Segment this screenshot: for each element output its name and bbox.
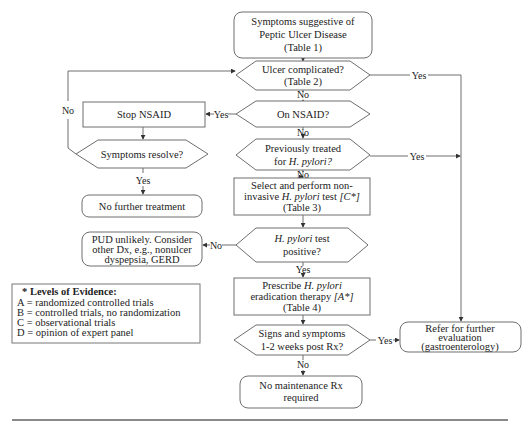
legend-item-d: D = opinion of expert panel xyxy=(17,327,134,338)
node-test-positive: H. pylori test positive? xyxy=(236,228,368,262)
node-signs-line1: Signs and symptoms xyxy=(259,328,346,339)
node-previously-line2: for H. pylori? xyxy=(274,156,333,167)
node-signs-post-rx: Signs and symptoms 1-2 weeks post Rx? xyxy=(234,325,370,355)
node-select-line3: (Table 3) xyxy=(283,202,322,214)
node-no-maintenance-line2: required xyxy=(284,392,320,403)
node-start-line2: Peptic Ulcer Disease xyxy=(259,29,347,40)
edge-label-nsaid-yes: Yes xyxy=(214,109,229,120)
node-symptoms-resolve: Symptoms resolve? xyxy=(76,140,208,168)
node-ulcer-line2: (Table 2) xyxy=(284,76,323,88)
evidence-legend: * Levels of Evidence: A = randomized con… xyxy=(12,284,200,343)
node-ulcer-line1: Ulcer complicated? xyxy=(262,64,344,75)
node-select-line1: Select and perform non- xyxy=(251,180,353,191)
edge-label-nsaid-no: No xyxy=(297,127,309,138)
node-previously-treated: Previously treated for H. pylori? xyxy=(236,139,370,170)
node-start-line3: (Table 1) xyxy=(284,42,323,54)
node-select-test: Select and perform non- invasive H. pylo… xyxy=(234,178,370,215)
edge-label-signs-no: No xyxy=(297,359,309,370)
node-no-further-label: No further treatment xyxy=(99,201,185,212)
node-on-nsaid: On NSAID? xyxy=(236,101,370,127)
node-prescribe: Prescribe H. pylori eradication therapy … xyxy=(234,278,370,315)
node-positive-line1: H. pylori test xyxy=(273,233,329,244)
node-select-line2: invasive H. pylori test [C*] xyxy=(244,191,360,202)
edge-label-ulcer-no: No xyxy=(297,89,309,100)
node-stop-nsaid: Stop NSAID xyxy=(83,102,205,127)
node-stop-nsaid-label: Stop NSAID xyxy=(117,109,171,120)
node-prescribe-line3: (Table 4) xyxy=(283,302,322,314)
edge-label-signs-yes: Yes xyxy=(378,335,393,346)
node-refer: Refer for further evaluation (gastroente… xyxy=(400,322,521,353)
node-pud-line3: dyspepsia, GERD xyxy=(104,254,180,265)
node-refer-line3: (gastroenterology) xyxy=(421,341,499,353)
node-positive-line2: positive? xyxy=(283,246,321,257)
edge-label-ulcer-yes: Yes xyxy=(412,70,427,81)
node-on-nsaid-label: On NSAID? xyxy=(277,109,330,120)
peptic-ulcer-flowchart: No Yes Yes No Yes No Yes No No Yes Yes N… xyxy=(0,0,531,425)
edge-label-treated-yes: Yes xyxy=(410,151,425,162)
edge-label-positive-no: No xyxy=(210,240,222,251)
edge-label-positive-yes: Yes xyxy=(296,264,311,275)
node-no-further-treatment: No further treatment xyxy=(82,195,202,217)
node-start-line1: Symptoms suggestive of xyxy=(251,16,355,27)
legend-title: * Levels of Evidence: xyxy=(22,286,117,297)
node-no-maintenance: No maintenance Rx required xyxy=(240,376,362,408)
node-symptoms-resolve-label: Symptoms resolve? xyxy=(101,149,184,160)
node-ulcer-complicated: Ulcer complicated? (Table 2) xyxy=(236,61,370,90)
node-signs-line2: 1-2 weeks post Rx? xyxy=(261,341,344,352)
edge-label-resolve-no: No xyxy=(62,105,74,116)
node-pud-unlikely: PUD unlikely. Consider other Dx, e.g., n… xyxy=(82,232,202,266)
node-prescribe-line1: Prescribe H. pylori xyxy=(262,280,342,291)
node-prescribe-line2: eradication therapy [A*] xyxy=(250,291,353,302)
node-no-maintenance-line1: No maintenance Rx xyxy=(259,380,343,391)
edge-label-resolve-yes: Yes xyxy=(136,175,151,186)
node-start: Symptoms suggestive of Peptic Ulcer Dise… xyxy=(234,12,372,58)
node-previously-line1: Previously treated xyxy=(265,143,342,154)
